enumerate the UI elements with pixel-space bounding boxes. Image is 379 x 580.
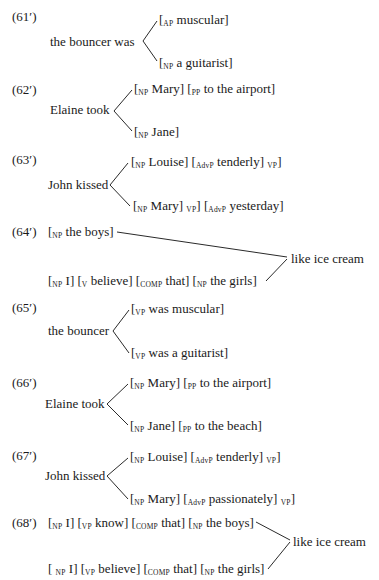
example-label: (64′) [12, 225, 37, 238]
branch-top: [VP was muscular] [131, 302, 224, 317]
example-label: (63′) [12, 153, 37, 166]
example-label: (62′) [12, 83, 37, 96]
stem: the bouncer was [50, 35, 134, 48]
stem: Elaine took [50, 103, 110, 116]
stem: John kissed [48, 178, 108, 191]
source-bottom: [NP I] [V believe] [COMP that] [NP the g… [48, 274, 257, 289]
source-top: [NP the boys] [48, 225, 114, 240]
source-bottom: [ NP I] [VP believe] [COMP that] [NP the… [48, 562, 264, 577]
branch-top: [NP Mary] [PP to the airport] [134, 82, 275, 97]
branch-top: [NP Mary] [PP to the airport] [130, 376, 271, 391]
source-top: [NP I] [VP know] [COMP that] [NP the boy… [48, 516, 254, 531]
example-label: (66′) [12, 376, 37, 389]
branch-top: [AP muscular] [159, 13, 229, 28]
example-label: (67′) [12, 449, 37, 462]
joined-predicate: like ice cream [291, 252, 364, 265]
branch-bottom: [VP was a guitarist] [131, 346, 228, 361]
stem: the bouncer [48, 324, 109, 337]
branch-top: [NP Louise] [AdvP tenderly] VP] [131, 155, 282, 170]
branch-bottom: [NP Mary] [AdvP passionately] VP] [130, 492, 295, 507]
example-label: (61′) [12, 10, 37, 23]
joined-predicate: like ice cream [293, 535, 366, 548]
example-label: (65′) [12, 301, 37, 314]
branch-bottom: [NP Jane] [134, 125, 179, 140]
branch-top: [NP Louise] [AdvP tenderly] VP] [130, 450, 281, 465]
branch-bottom: [NP Jane] [PP to the beach] [130, 419, 262, 434]
example-label: (68′) [12, 516, 37, 529]
stem: Elaine took [45, 397, 105, 410]
branch-bottom: [NP Mary] VP] [AdvP yesterday] [133, 199, 284, 214]
branch-bottom: [NP a guitarist] [159, 56, 233, 71]
stem: John kissed [45, 469, 105, 482]
